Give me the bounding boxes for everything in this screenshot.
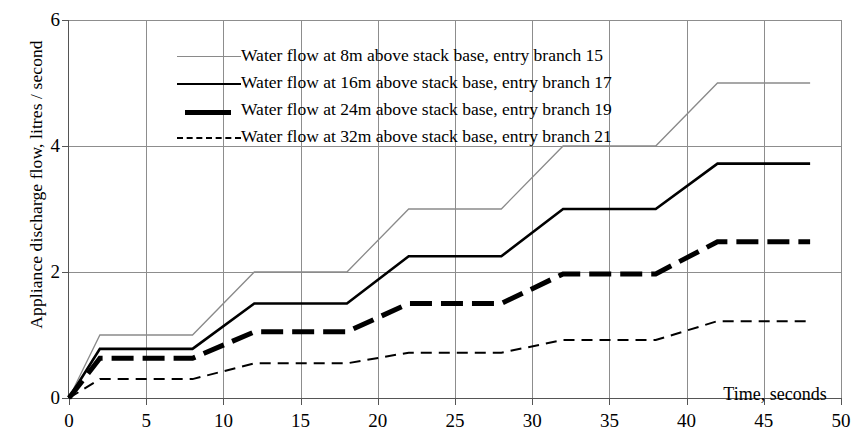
x-tick-label: 40 <box>677 410 696 432</box>
legend-item: Water flow at 16m above stack base, entr… <box>177 69 817 96</box>
x-tick-label: 30 <box>523 410 542 432</box>
series-line-branch19 <box>69 242 810 398</box>
legend-item: Water flow at 32m above stack base, entr… <box>177 123 817 150</box>
x-tick <box>69 398 70 405</box>
x-tick <box>687 398 688 405</box>
x-tick <box>841 398 842 405</box>
series-line-branch17 <box>69 164 810 398</box>
x-tick <box>223 398 224 405</box>
legend-swatch-branch21-icon <box>177 130 241 144</box>
y-tick <box>62 272 69 273</box>
x-tick <box>301 398 302 405</box>
x-tick <box>532 398 533 405</box>
legend-label: Water flow at 16m above stack base, entr… <box>241 72 612 93</box>
y-tick-label: 6 <box>51 9 61 31</box>
legend-item: Water flow at 24m above stack base, entr… <box>177 96 817 123</box>
x-tick <box>378 398 379 405</box>
x-tick-label: 15 <box>291 410 310 432</box>
legend-item: Water flow at 8m above stack base, entry… <box>177 42 817 69</box>
x-tick-label: 35 <box>600 410 619 432</box>
legend-swatch-branch15-icon <box>177 49 241 63</box>
x-tick-label: 0 <box>64 410 74 432</box>
plot-area: 024605101520253035404550 Water flow at 8… <box>68 20 841 399</box>
x-tick <box>146 398 147 405</box>
y-tick <box>62 20 69 21</box>
chart-figure: Appliance discharge flow, litres / secon… <box>0 0 858 438</box>
legend-label: Water flow at 32m above stack base, entr… <box>241 126 612 147</box>
y-tick-label: 4 <box>51 135 61 157</box>
x-tick <box>609 398 610 405</box>
x-gridline <box>841 20 842 398</box>
x-tick-label: 10 <box>214 410 233 432</box>
x-tick-label: 5 <box>141 410 151 432</box>
y-tick <box>62 146 69 147</box>
y-tick-label: 0 <box>51 387 61 409</box>
x-tick-label: 50 <box>832 410 851 432</box>
x-tick-label: 25 <box>446 410 465 432</box>
y-axis-title: Appliance discharge flow, litres / secon… <box>26 0 47 385</box>
x-tick <box>455 398 456 405</box>
x-tick-label: 20 <box>368 410 387 432</box>
legend: Water flow at 8m above stack base, entry… <box>177 42 817 150</box>
x-tick-label: 45 <box>754 410 773 432</box>
legend-swatch-branch17-icon <box>177 76 241 90</box>
y-tick <box>62 398 69 399</box>
legend-swatch-branch19-icon <box>177 103 241 117</box>
legend-label: Water flow at 24m above stack base, entr… <box>241 99 612 120</box>
y-tick-label: 2 <box>51 261 61 283</box>
x-axis-title: Time, seconds <box>723 384 826 405</box>
legend-label: Water flow at 8m above stack base, entry… <box>241 45 603 66</box>
